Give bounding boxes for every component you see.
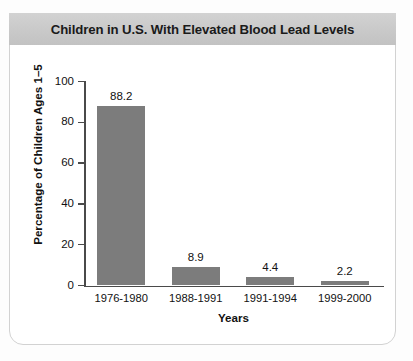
chart-figure: Children in U.S. With Elevated Blood Lea… (0, 0, 413, 361)
bar-value-label: 4.4 (240, 261, 300, 273)
y-axis-line (84, 81, 86, 287)
chart-title: Children in U.S. With Elevated Blood Lea… (51, 22, 355, 37)
y-axis-tick-label: 0 (38, 280, 74, 292)
x-axis-tick-label: 1988-1991 (156, 292, 236, 304)
bar-value-label: 2.2 (315, 265, 375, 277)
x-axis-title: Years (85, 311, 382, 324)
x-axis-tick-label: 1976-1980 (81, 292, 161, 304)
x-axis-tick-label: 1991-1994 (230, 292, 310, 304)
bar (97, 106, 145, 286)
y-axis-title: Percentage of Children Ages 1–5 (31, 55, 44, 255)
y-axis-tick (78, 122, 84, 124)
y-axis-tick (78, 244, 84, 246)
x-axis-line (84, 286, 384, 288)
y-axis-tick (78, 162, 84, 164)
x-axis-tick-label: 1999-2000 (305, 292, 385, 304)
bar (172, 267, 220, 285)
y-axis-tick (78, 285, 84, 287)
y-axis-tick (78, 81, 84, 83)
bar-value-label: 8.9 (166, 251, 226, 263)
bar (321, 281, 369, 285)
chart-title-band: Children in U.S. With Elevated Blood Lea… (9, 13, 396, 45)
bar-value-label: 88.2 (91, 90, 151, 102)
bar (246, 277, 294, 286)
y-axis-tick (78, 203, 84, 205)
